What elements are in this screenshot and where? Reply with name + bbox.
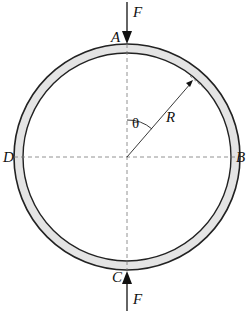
label-point-a: A	[110, 29, 121, 45]
label-point-d: D	[2, 149, 14, 165]
label-force-top: F	[132, 4, 143, 20]
force-top	[122, 2, 132, 44]
angle-arc	[127, 120, 152, 129]
arrow-up-icon	[122, 271, 132, 284]
ring-diagram: F A B C D F R θ	[0, 0, 249, 313]
label-radius: R	[165, 109, 175, 125]
force-bottom	[122, 271, 132, 311]
label-force-bottom: F	[132, 291, 143, 307]
diagram-canvas: F A B C D F R θ	[0, 0, 249, 313]
label-angle: θ	[132, 115, 139, 131]
arrow-down-icon	[122, 31, 132, 44]
label-point-c: C	[112, 269, 123, 285]
label-point-b: B	[236, 149, 245, 165]
